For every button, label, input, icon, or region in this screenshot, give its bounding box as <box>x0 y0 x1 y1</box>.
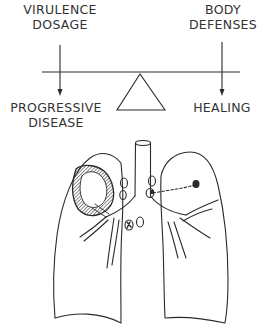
lungs-illustration <box>54 141 228 324</box>
left-arrow-icon <box>58 45 63 96</box>
fulcrum-triangle <box>117 74 165 110</box>
left-lung-outline <box>161 152 228 323</box>
right-arrow-icon <box>220 42 225 96</box>
trachea <box>135 141 151 197</box>
cavitary-lesion <box>73 165 114 217</box>
diagram-canvas <box>0 0 272 330</box>
lymphatic-connection-dashed <box>153 185 195 193</box>
primary-focus <box>193 181 199 188</box>
balance-scale <box>42 72 240 110</box>
